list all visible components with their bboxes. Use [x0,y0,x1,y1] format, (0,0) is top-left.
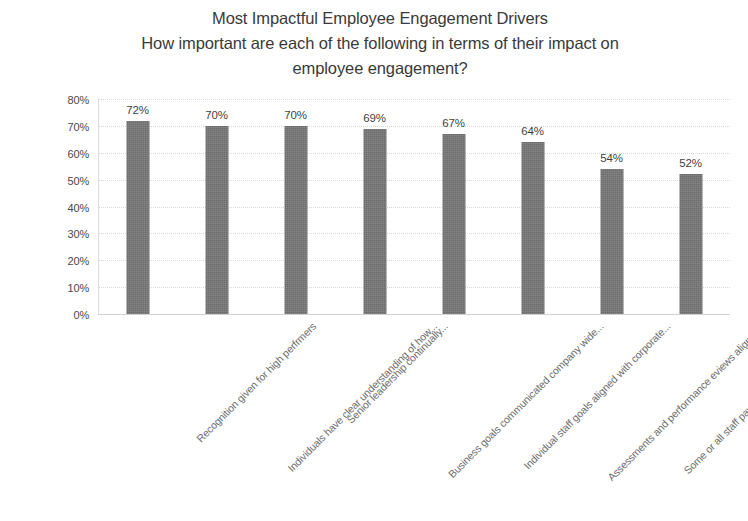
bar [205,126,228,314]
plot-area: 80%70%60%50%40%30%20%10%0% 72%70%70%69%6… [98,99,730,314]
bar-value-label: 67% [442,117,464,129]
bar-group: 72% [98,99,177,314]
bar-value-label: 70% [205,109,227,121]
y-axis-tick-label: 80% [68,94,89,106]
bar [600,169,623,314]
bar [284,126,307,314]
category-label: Assessments and performance eviews align… [605,320,748,483]
category-label: Recognition given for high perfrmers [193,320,317,444]
bar-value-label: 70% [284,109,306,121]
category-label: Senior leadership continually... [344,320,450,426]
y-axis-tick-label: 10% [68,282,89,294]
bar [126,121,149,315]
bar [363,129,386,314]
chart-title: Most Impactful Employee Engagement Drive… [60,6,700,81]
category-label: Individuals have clear understanding of … [285,320,439,474]
bar-group: 64% [493,99,572,314]
bars-layer: 72%70%70%69%67%64%54%52% [98,99,730,314]
bar-group: 70% [256,99,335,314]
bar [679,174,702,314]
bar [521,142,544,314]
bar-group: 67% [414,99,493,314]
bar-value-label: 64% [521,125,543,137]
y-axis-tick-label: 40% [68,202,89,214]
bar-value-label: 69% [363,112,385,124]
bar-chart: Most Impactful Employee Engagement Drive… [0,0,748,521]
category-axis-labels: Recognition given for high perfrmersIndi… [0,314,748,521]
category-label: Individual staff goals aligned with corp… [521,320,672,471]
y-axis-tick-label: 70% [68,121,89,133]
y-axis-tick-label: 50% [68,175,89,187]
bar-group: 52% [651,99,730,314]
bar-value-label: 54% [600,152,622,164]
y-axis-tick-label: 30% [68,228,89,240]
bar-value-label: 72% [126,104,148,116]
bar [442,134,465,314]
bar-group: 54% [572,99,651,314]
bar-group: 70% [177,99,256,314]
bar-value-label: 52% [679,157,701,169]
chart-title-text: Most Impactful Employee Engagement Drive… [141,9,619,77]
y-axis-tick-label: 60% [68,148,89,160]
category-label: Business goals communicated company wide… [445,320,605,480]
bar-group: 69% [335,99,414,314]
y-axis-tick-label: 20% [68,255,89,267]
